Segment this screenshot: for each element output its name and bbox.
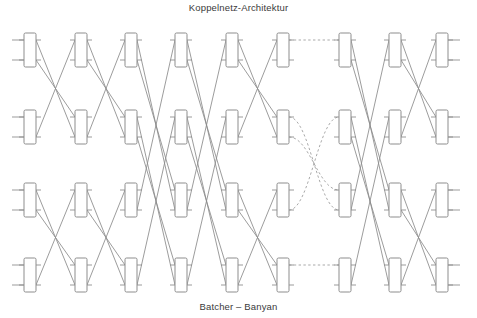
switching-element — [389, 110, 401, 144]
switching-element — [277, 258, 289, 292]
switching-element — [436, 183, 448, 217]
switching-element — [24, 110, 36, 144]
switching-element — [175, 183, 187, 217]
switching-element — [339, 183, 351, 217]
switching-element — [24, 183, 36, 217]
switching-element — [339, 258, 351, 292]
switching-element — [389, 33, 401, 67]
switching-element — [125, 33, 137, 67]
fabric-link — [289, 117, 339, 210]
switching-element — [277, 33, 289, 67]
switching-element — [125, 110, 137, 144]
switching-element — [125, 258, 137, 292]
links-layer — [12, 40, 460, 285]
switching-element — [226, 258, 238, 292]
switching-element — [24, 258, 36, 292]
switching-element — [389, 183, 401, 217]
switches-layer — [24, 33, 448, 292]
switching-element — [436, 33, 448, 67]
switching-fabric-svg — [0, 0, 477, 318]
switching-element — [75, 183, 87, 217]
diagram-page: Koppelnetz-Architektur Batcher – Banyan — [0, 0, 477, 318]
switching-element — [389, 258, 401, 292]
switching-element — [277, 110, 289, 144]
switching-element — [436, 258, 448, 292]
switching-element — [277, 183, 289, 217]
switching-element — [339, 110, 351, 144]
fabric-canvas — [0, 0, 477, 318]
switching-element — [125, 183, 137, 217]
switching-element — [339, 33, 351, 67]
switching-element — [226, 33, 238, 67]
switching-element — [226, 183, 238, 217]
switching-element — [24, 33, 36, 67]
switching-element — [226, 110, 238, 144]
switching-element — [175, 258, 187, 292]
switching-element — [436, 110, 448, 144]
switching-element — [75, 33, 87, 67]
figure-caption: Batcher – Banyan — [0, 299, 477, 315]
switching-element — [175, 33, 187, 67]
switching-element — [75, 258, 87, 292]
switching-element — [175, 110, 187, 144]
switching-element — [75, 110, 87, 144]
